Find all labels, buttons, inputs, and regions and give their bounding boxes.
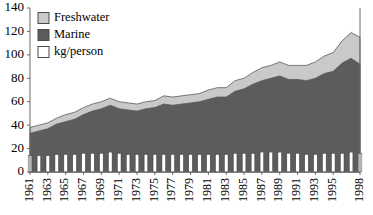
y-tick-label: 120	[5, 23, 25, 38]
x-tick-label: 1987	[254, 178, 268, 202]
y-axis-ticks: 020406080100120140	[5, 0, 31, 178]
bar-kg-per-person	[162, 154, 166, 172]
x-tick-label: 1979	[182, 178, 196, 202]
bar-kg-per-person	[278, 152, 282, 172]
bar-kg-per-person	[340, 153, 344, 172]
bar-kg-per-person	[82, 153, 86, 172]
x-tick-label: 1993	[307, 178, 321, 202]
legend-label-marine: Marine	[54, 27, 91, 41]
legend-swatch-marine	[38, 30, 49, 41]
x-tick-label: 1983	[218, 178, 232, 202]
bar-kg-per-person	[189, 154, 193, 172]
bar-kg-per-person	[296, 153, 300, 172]
x-tick-label: 1969	[93, 178, 107, 202]
legend-swatch-freshwater	[38, 13, 49, 24]
x-axis-ticks: 1961196319651967196919711973197519771979…	[22, 172, 366, 202]
x-tick-label: 1995	[325, 178, 339, 202]
bar-kg-per-person	[314, 154, 318, 172]
stacked-area-chart: 020406080100120140 196119631965196719691…	[0, 0, 373, 215]
bar-kg-per-person	[46, 156, 50, 172]
x-tick-label: 1998	[352, 178, 366, 202]
legend-swatch-kg-person	[38, 47, 49, 58]
bar-kg-per-person	[305, 154, 309, 172]
y-tick-label: 100	[5, 46, 25, 61]
y-tick-label: 60	[11, 93, 24, 108]
chart-container: 020406080100120140 196119631965196719691…	[0, 0, 373, 215]
x-tick-label: 1961	[22, 178, 36, 202]
bar-kg-per-person	[153, 154, 157, 172]
y-tick-label: 40	[11, 117, 24, 132]
bar-kg-per-person	[323, 153, 327, 172]
bar-kg-per-person	[260, 152, 264, 172]
x-tick-label: 1981	[200, 178, 214, 202]
y-tick-label: 140	[5, 0, 25, 14]
bar-kg-per-person	[233, 153, 237, 172]
y-tick-label: 0	[18, 163, 25, 178]
bar-kg-per-person	[349, 152, 353, 172]
bar-kg-per-person	[144, 154, 148, 172]
bar-kg-per-person	[171, 154, 175, 172]
bar-kg-per-person	[269, 152, 273, 172]
legend-label-freshwater: Freshwater	[54, 10, 110, 24]
x-tick-label: 1967	[75, 178, 89, 202]
bar-kg-per-person	[215, 154, 219, 172]
bar-kg-per-person	[135, 154, 139, 172]
x-tick-label: 1963	[40, 178, 54, 202]
bar-kg-per-person	[117, 153, 121, 172]
x-tick-label: 1965	[57, 178, 71, 202]
bar-kg-per-person	[91, 153, 95, 172]
bar-kg-per-person	[287, 153, 291, 172]
x-tick-label: 1989	[271, 178, 285, 202]
x-tick-label: 1985	[236, 178, 250, 202]
bar-kg-per-person	[198, 154, 202, 172]
bar-kg-per-person	[37, 156, 41, 172]
bar-kg-per-person	[73, 154, 77, 172]
bar-kg-per-person	[64, 154, 68, 172]
bar-kg-per-person	[331, 153, 335, 172]
bar-kg-per-person	[180, 154, 184, 172]
y-tick-label: 80	[11, 70, 24, 85]
x-tick-label: 1971	[111, 178, 125, 202]
x-tick-label: 1991	[289, 178, 303, 202]
y-tick-label: 20	[11, 140, 24, 155]
bar-kg-per-person	[108, 152, 112, 172]
x-tick-label: 1973	[129, 178, 143, 202]
x-tick-label: 1975	[147, 178, 161, 202]
bar-kg-per-person	[126, 154, 130, 172]
legend-label-kg-person: kg/person	[54, 44, 104, 58]
bar-kg-per-person	[224, 154, 228, 172]
bar-kg-per-person	[207, 154, 211, 172]
bar-kg-per-person	[100, 153, 104, 172]
bar-kg-per-person	[242, 153, 246, 172]
bar-kg-per-person	[55, 154, 59, 172]
bar-kg-per-person	[251, 153, 255, 172]
x-tick-label: 1977	[164, 178, 178, 202]
